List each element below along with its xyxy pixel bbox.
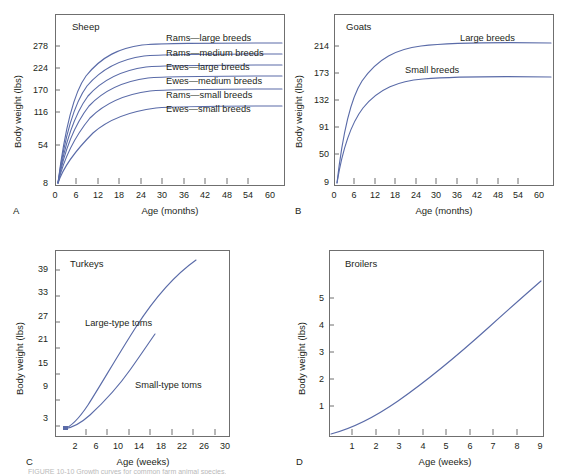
panel-c-series-label: Small-type toms <box>135 380 202 390</box>
panel-d-xtick: 7 <box>483 441 503 451</box>
panel-d-xtick: 8 <box>507 441 527 451</box>
panel-d-plot-area <box>329 250 544 437</box>
panel-b-ytick: 9 <box>305 177 329 187</box>
panel-b-xtick: 42 <box>467 190 487 200</box>
panel-c-xtick: 14 <box>129 441 149 451</box>
panel-d-ylabel: Body weight (lbs) <box>296 322 307 395</box>
panel-c-ytick: 27 <box>26 311 48 321</box>
panel-b-xtick: 6 <box>344 190 364 200</box>
panel-d-title: Broilers <box>345 258 377 269</box>
panel-a-xtick: 6 <box>66 190 86 200</box>
panel-b-xtick: 54 <box>508 190 528 200</box>
panel-a-xtick: 54 <box>238 190 258 200</box>
panel-a-ytick: 170 <box>24 85 48 95</box>
panel-d-xlabel: Age (weeks) <box>395 456 495 467</box>
panel-d-ytick: 3 <box>308 347 324 357</box>
panel-a-series-label: Rams—small breeds <box>166 90 252 100</box>
panel-c-plot-area <box>55 250 230 437</box>
panel-b-xtick: 36 <box>447 190 467 200</box>
panel-a-ytick: 8 <box>24 178 48 188</box>
panel-c-ytick: 15 <box>26 358 48 368</box>
panel-c-ytick: 9 <box>26 381 48 391</box>
panel-a-series-label: Rams—medium breeds <box>166 48 264 58</box>
panel-b-ytick: 214 <box>305 41 329 51</box>
panel-c-xtick: 2 <box>65 441 85 451</box>
panel-letter-b: B <box>295 205 301 216</box>
panel-d-xtick: 4 <box>413 441 433 451</box>
panel-a-title: Sheep <box>72 21 99 32</box>
panel-d-ytick: 2 <box>308 374 324 384</box>
panel-c-ylabel: Body weight (lbs) <box>14 322 25 395</box>
panel-d-ytick: 4 <box>308 320 324 330</box>
panel-d-xtick: 3 <box>389 441 409 451</box>
panel-a-xtick: 0 <box>45 190 65 200</box>
panel-c-xtick: 22 <box>172 441 192 451</box>
panel-a-ytick: 278 <box>24 41 48 51</box>
panel-c-ytick: 3 <box>26 413 48 423</box>
panel-d-xtick: 9 <box>530 441 550 451</box>
panel-c-xlabel: Age (weeks) <box>93 456 193 467</box>
panel-d-xtick: 2 <box>366 441 386 451</box>
panel-b-ytick: 91 <box>305 122 329 132</box>
panel-b-xtick: 48 <box>488 190 508 200</box>
panel-d-xtick: 1 <box>342 441 362 451</box>
panel-a-xtick: 36 <box>174 190 194 200</box>
panel-b-xtick: 18 <box>385 190 405 200</box>
panel-d-ytick: 1 <box>308 401 324 411</box>
panel-b-ytick: 132 <box>305 95 329 105</box>
panel-d-ytick: 5 <box>308 293 324 303</box>
panel-letter-a: A <box>13 205 19 216</box>
panel-a-ytick: 224 <box>24 63 48 73</box>
panel-a-ylabel: Body weight (lbs) <box>12 75 23 148</box>
panel-b-curves <box>335 15 553 185</box>
panel-b-ytick: 173 <box>305 68 329 78</box>
panel-c-xtick: 6 <box>86 441 106 451</box>
panel-letter-d: D <box>296 456 303 467</box>
panel-b-xtick: 12 <box>365 190 385 200</box>
panel-b-xtick: 30 <box>426 190 446 200</box>
panel-c-xtick: 18 <box>151 441 171 451</box>
panel-b-xtick: 24 <box>406 190 426 200</box>
panel-a-xtick: 48 <box>217 190 237 200</box>
panel-c-title: Turkeys <box>70 258 103 269</box>
panel-a-series-label: Ewes—medium breeds <box>166 76 262 86</box>
panel-b-series-label: Large breeds <box>460 33 515 43</box>
panel-b-plot-area <box>334 14 554 186</box>
panel-a-xtick: 60 <box>260 190 280 200</box>
panel-a-xtick: 12 <box>88 190 108 200</box>
panel-c-ytick: 21 <box>26 334 48 344</box>
panel-letter-c: C <box>26 456 33 467</box>
panel-c-curves <box>56 251 229 436</box>
panel-b-ylabel: Body weight (lbs) <box>293 75 304 148</box>
panel-d-xtick: 6 <box>460 441 480 451</box>
panel-c-series-label: Large-type toms <box>85 318 152 328</box>
panel-b-xlabel: Age (months) <box>394 205 494 216</box>
panel-b-xtick: 0 <box>324 190 344 200</box>
panel-a-xtick: 18 <box>109 190 129 200</box>
panel-a-series-label: Ewes—small breeds <box>166 104 251 114</box>
panel-a-series-label: Ewes—large breeds <box>166 62 250 72</box>
panel-a-xlabel: Age (months) <box>120 205 220 216</box>
panel-d-xtick: 5 <box>436 441 456 451</box>
figure-caption: FIGURE 10-10 Growth curves for common fa… <box>28 468 226 474</box>
panel-c-xtick: 10 <box>108 441 128 451</box>
panel-a-series-label: Rams—large breeds <box>166 33 251 43</box>
panel-b-title: Goats <box>346 21 371 32</box>
panel-d-curves <box>330 251 543 436</box>
panel-a-ytick: 54 <box>24 140 48 150</box>
panel-a-xtick: 30 <box>152 190 172 200</box>
panel-a-xtick: 24 <box>131 190 151 200</box>
panel-c-xtick: 26 <box>194 441 214 451</box>
panel-b-ytick: 50 <box>305 149 329 159</box>
panel-b-xtick: 60 <box>529 190 549 200</box>
panel-b-series-label: Small breeds <box>405 65 459 75</box>
panel-c-xtick: 30 <box>215 441 235 451</box>
panel-c-ytick: 39 <box>26 264 48 274</box>
panel-a-xtick: 42 <box>195 190 215 200</box>
panel-c-ytick: 33 <box>26 287 48 297</box>
panel-a-ytick: 116 <box>24 107 48 117</box>
